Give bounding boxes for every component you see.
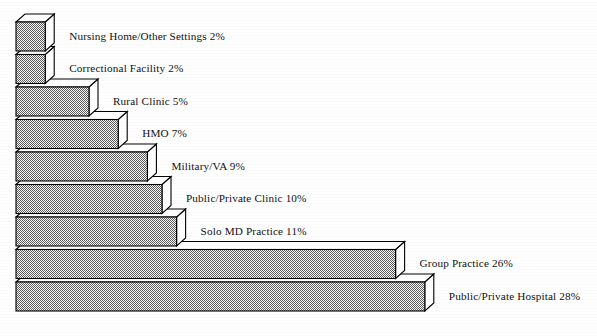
bar-3 [16,79,98,116]
bar-front-face [16,55,45,84]
bar-label-8: Group Practice 26% [420,257,513,269]
bar-label-1: Nursing Home/Other Settings 2% [69,30,225,42]
bar-label-7: Solo MD Practice 11% [201,225,307,237]
bar-front-face [16,282,425,311]
bar-front-face [16,120,118,149]
bar-chart-figure: Public/Private Hospital 28%Group Practic… [0,0,597,336]
bar-label-9: Public/Private Hospital 28% [449,290,580,302]
bar-front-face [16,22,45,51]
bar-7 [16,209,186,246]
bar-label-5: Military/VA 9% [171,160,245,172]
bar-front-face [16,87,89,116]
bar-5 [16,144,156,181]
bar-front-face [16,250,396,279]
bar-front-face [16,185,162,214]
bar-6 [16,177,171,214]
bar-8 [16,242,405,279]
bar-9 [16,274,434,311]
bar-chart-container: Public/Private Hospital 28%Group Practic… [0,0,597,336]
bar-2 [16,47,54,84]
bar-front-face [16,152,147,181]
bar-1 [16,14,54,51]
bar-label-4: HMO 7% [142,127,187,139]
bar-label-3: Rural Clinic 5% [113,95,188,107]
bar-label-2: Correctional Facility 2% [69,62,183,74]
bar-4 [16,112,127,149]
bar-front-face [16,217,177,246]
bar-label-6: Public/Private Clinic 10% [186,192,307,204]
